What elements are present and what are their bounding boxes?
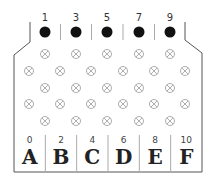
crossed-circle-icon	[181, 67, 190, 76]
crossed-circle-icon	[72, 84, 81, 93]
column-letter-label: B	[53, 145, 70, 169]
column-number-label: 10	[181, 135, 193, 145]
pin-number-label: 7	[136, 12, 142, 23]
pin-dot-icon	[134, 27, 145, 38]
column-letter-label: F	[179, 145, 193, 169]
column-number-label: 8	[152, 135, 158, 145]
crossed-circle-icon	[135, 84, 144, 93]
crossed-circle-icon	[166, 84, 175, 93]
crossed-circle-icon	[103, 50, 112, 59]
crossed-circle-icon	[119, 67, 128, 76]
column-number-label: 6	[121, 135, 127, 145]
column-number-label: 2	[58, 135, 64, 145]
crossed-circle-grid	[25, 50, 190, 126]
column-letter-label: C	[84, 145, 100, 169]
pin-number-label: 5	[104, 12, 110, 23]
crossed-circle-icon	[41, 84, 50, 93]
bottom-column-labels: 0A2B4C6D8E10F	[21, 135, 194, 172]
crossed-circle-icon	[87, 67, 96, 76]
crossed-circle-icon	[135, 117, 144, 126]
crossed-circle-icon	[72, 117, 81, 126]
pin-dot-icon	[102, 27, 113, 38]
crossed-circle-icon	[25, 100, 34, 109]
crossed-circle-icon	[56, 67, 65, 76]
crossed-circle-icon	[41, 50, 50, 59]
crossed-circle-icon	[56, 100, 65, 109]
column-letter-label: A	[21, 145, 38, 169]
top-pins: 13579	[40, 12, 176, 38]
pin-dot-icon	[40, 27, 51, 38]
pin-number-label: 3	[73, 12, 79, 23]
pin-number-label: 9	[167, 12, 173, 23]
column-letter-label: D	[115, 145, 132, 169]
column-number-label: 0	[27, 135, 33, 145]
crossed-circle-icon	[41, 117, 50, 126]
pin-number-label: 1	[42, 12, 48, 23]
column-number-label: 4	[89, 135, 95, 145]
crossed-circle-icon	[135, 50, 144, 59]
pin-dot-icon	[165, 27, 176, 38]
crossed-circle-icon	[25, 67, 34, 76]
crossed-circle-icon	[181, 100, 190, 109]
crossed-circle-icon	[72, 50, 81, 59]
crossed-circle-icon	[119, 100, 128, 109]
crossed-circle-icon	[150, 67, 159, 76]
column-letter-label: E	[147, 145, 162, 169]
crossed-circle-icon	[103, 84, 112, 93]
connector-diagram: 13579 0A2B4C6D8E10F	[0, 0, 213, 182]
crossed-circle-icon	[103, 117, 112, 126]
crossed-circle-icon	[166, 117, 175, 126]
crossed-circle-icon	[166, 50, 175, 59]
pin-dot-icon	[71, 27, 82, 38]
crossed-circle-icon	[87, 100, 96, 109]
crossed-circle-icon	[150, 100, 159, 109]
